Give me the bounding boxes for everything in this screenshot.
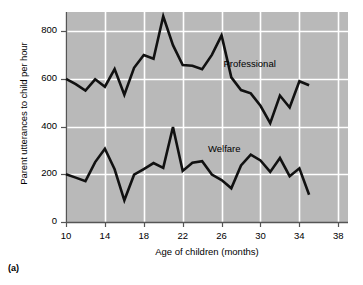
x-tick-label: 38 xyxy=(325,230,351,241)
x-tick-label: 14 xyxy=(92,230,118,241)
series-label-welfare: Welfare xyxy=(208,143,241,154)
y-axis-label: Parent utterances to child per hour xyxy=(18,14,29,214)
y-tick-label: 0 xyxy=(23,215,57,226)
y-tick-label: 400 xyxy=(23,120,57,131)
x-tick-label: 26 xyxy=(209,230,235,241)
y-tick-label: 600 xyxy=(23,72,57,83)
x-axis-label: Age of children (months) xyxy=(66,246,348,257)
chart-figure: Parent utterances to child per hour Age … xyxy=(0,0,363,285)
y-tick-label: 800 xyxy=(23,24,57,35)
x-tick-label: 34 xyxy=(286,230,312,241)
x-tick-label: 10 xyxy=(53,230,79,241)
line-chart-canvas xyxy=(0,0,363,285)
figure-caption: (a) xyxy=(8,263,19,273)
x-tick-label: 18 xyxy=(131,230,157,241)
plot-area-background xyxy=(66,12,348,222)
y-tick-label: 200 xyxy=(23,167,57,178)
series-label-professional: Professional xyxy=(224,58,276,69)
x-tick-label: 22 xyxy=(170,230,196,241)
x-tick-label: 30 xyxy=(247,230,273,241)
